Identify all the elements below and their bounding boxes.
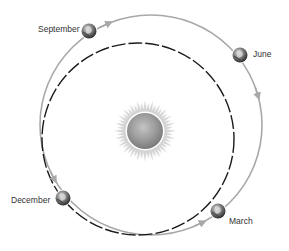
sun-icon — [114, 100, 176, 162]
earth-december-icon — [55, 190, 72, 207]
earth-june-icon — [232, 47, 249, 64]
earth-orbit-diagram: September June December March — [0, 0, 289, 251]
label-december: December — [11, 196, 50, 205]
label-march: March — [229, 217, 253, 226]
earth-march-icon — [210, 203, 227, 220]
label-june: June — [253, 50, 271, 59]
orbit-svg — [0, 0, 289, 251]
earth-september-icon — [81, 23, 98, 40]
label-september: September — [38, 25, 80, 34]
